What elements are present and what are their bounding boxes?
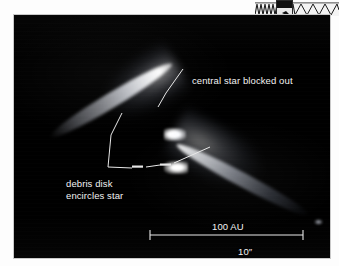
leader-line-debris-disk-upper [108,113,122,167]
annotation-overlay [14,15,330,258]
leader-line-debris-disk-lower-c [174,147,210,163]
waveform-icon [255,2,339,16]
leader-line-debris-disk-lower-b [146,165,160,167]
thumbnail-header-stripe [277,1,292,8]
annotation-debris-disk-label: debris disk encircles star [66,178,123,201]
scale-bar-lower-label: 10″ [238,246,252,258]
annotation-debris-disk-line1: debris disk [66,178,123,190]
annotation-debris-disk-line2: encircles star [66,190,123,202]
scale-bar-upper-label: 100 AU [212,221,244,233]
scan-waveform-artifact [255,2,339,16]
leader-line-central-star [158,69,183,107]
leader-tick-1 [132,166,143,168]
astronomical-image-plate: central star blocked out debris disk enc… [14,15,330,258]
leader-line-debris-disk-lower-a [108,167,132,168]
annotation-central-star-label: central star blocked out [192,75,293,87]
figure-page: central star blocked out debris disk enc… [0,0,339,266]
leader-tick-2 [160,164,171,166]
